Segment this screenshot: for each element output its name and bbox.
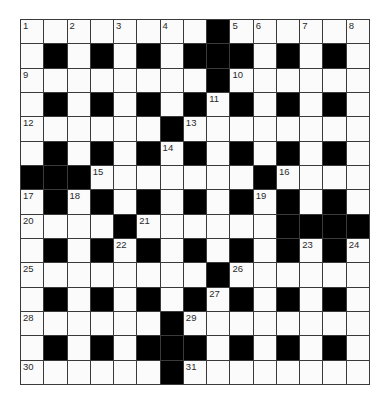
answer-cell[interactable]: 10	[230, 69, 252, 92]
answer-cell[interactable]: 25	[21, 263, 43, 286]
answer-cell[interactable]	[91, 312, 113, 335]
answer-cell[interactable]	[68, 361, 90, 384]
answer-cell[interactable]: 28	[21, 312, 43, 335]
answer-cell[interactable]	[347, 93, 369, 116]
answer-cell[interactable]	[184, 20, 206, 43]
answer-cell[interactable]	[254, 69, 276, 92]
answer-cell[interactable]: 7	[300, 20, 322, 43]
answer-cell[interactable]	[300, 288, 322, 311]
answer-cell[interactable]	[68, 215, 90, 238]
answer-cell[interactable]	[161, 166, 183, 189]
answer-cell[interactable]	[21, 239, 43, 262]
answer-cell[interactable]: 3	[114, 20, 136, 43]
answer-cell[interactable]	[21, 288, 43, 311]
answer-cell[interactable]	[137, 312, 159, 335]
answer-cell[interactable]	[161, 93, 183, 116]
answer-cell[interactable]	[114, 263, 136, 286]
answer-cell[interactable]	[300, 117, 322, 140]
answer-cell[interactable]	[114, 312, 136, 335]
answer-cell[interactable]	[91, 69, 113, 92]
answer-cell[interactable]: 6	[254, 20, 276, 43]
answer-cell[interactable]: 9	[21, 69, 43, 92]
answer-cell[interactable]	[300, 190, 322, 213]
answer-cell[interactable]	[207, 190, 229, 213]
answer-cell[interactable]	[323, 20, 345, 43]
answer-cell[interactable]	[323, 361, 345, 384]
answer-cell[interactable]	[137, 117, 159, 140]
answer-cell[interactable]	[254, 117, 276, 140]
answer-cell[interactable]	[137, 20, 159, 43]
answer-cell[interactable]	[137, 69, 159, 92]
answer-cell[interactable]	[254, 215, 276, 238]
answer-cell[interactable]	[277, 263, 299, 286]
answer-cell[interactable]	[114, 190, 136, 213]
answer-cell[interactable]: 15	[91, 166, 113, 189]
answer-cell[interactable]: 29	[184, 312, 206, 335]
answer-cell[interactable]	[91, 361, 113, 384]
answer-cell[interactable]	[114, 288, 136, 311]
answer-cell[interactable]: 19	[254, 190, 276, 213]
answer-cell[interactable]	[44, 20, 66, 43]
answer-cell[interactable]: 1	[21, 20, 43, 43]
answer-cell[interactable]	[114, 142, 136, 165]
answer-cell[interactable]	[114, 69, 136, 92]
answer-cell[interactable]: 5	[230, 20, 252, 43]
answer-cell[interactable]	[68, 93, 90, 116]
answer-cell[interactable]	[184, 69, 206, 92]
answer-cell[interactable]	[323, 117, 345, 140]
answer-cell[interactable]	[207, 336, 229, 359]
answer-cell[interactable]	[68, 288, 90, 311]
answer-cell[interactable]	[161, 263, 183, 286]
answer-cell[interactable]: 12	[21, 117, 43, 140]
answer-cell[interactable]	[254, 312, 276, 335]
answer-cell[interactable]	[21, 336, 43, 359]
answer-cell[interactable]	[277, 69, 299, 92]
answer-cell[interactable]	[44, 215, 66, 238]
answer-cell[interactable]: 4	[161, 20, 183, 43]
answer-cell[interactable]	[254, 142, 276, 165]
answer-cell[interactable]	[347, 69, 369, 92]
answer-cell[interactable]	[254, 288, 276, 311]
answer-cell[interactable]	[21, 142, 43, 165]
answer-cell[interactable]	[68, 239, 90, 262]
answer-cell[interactable]	[161, 288, 183, 311]
answer-cell[interactable]	[68, 312, 90, 335]
answer-cell[interactable]	[207, 117, 229, 140]
answer-cell[interactable]	[68, 117, 90, 140]
answer-cell[interactable]	[230, 312, 252, 335]
answer-cell[interactable]	[300, 69, 322, 92]
answer-cell[interactable]	[68, 263, 90, 286]
answer-cell[interactable]: 24	[347, 239, 369, 262]
answer-cell[interactable]	[161, 190, 183, 213]
answer-cell[interactable]	[114, 166, 136, 189]
answer-cell[interactable]: 21	[137, 215, 159, 238]
answer-cell[interactable]	[44, 263, 66, 286]
answer-cell[interactable]	[161, 44, 183, 67]
answer-cell[interactable]	[277, 312, 299, 335]
answer-cell[interactable]	[21, 44, 43, 67]
answer-cell[interactable]	[207, 239, 229, 262]
answer-cell[interactable]	[254, 44, 276, 67]
answer-cell[interactable]	[114, 336, 136, 359]
answer-cell[interactable]	[300, 166, 322, 189]
answer-cell[interactable]	[207, 215, 229, 238]
answer-cell[interactable]	[91, 20, 113, 43]
answer-cell[interactable]	[323, 166, 345, 189]
answer-cell[interactable]	[114, 44, 136, 67]
answer-cell[interactable]	[230, 361, 252, 384]
answer-cell[interactable]: 13	[184, 117, 206, 140]
answer-cell[interactable]	[44, 117, 66, 140]
answer-cell[interactable]	[300, 361, 322, 384]
answer-cell[interactable]: 27	[207, 288, 229, 311]
answer-cell[interactable]	[277, 117, 299, 140]
answer-cell[interactable]	[230, 215, 252, 238]
answer-cell[interactable]	[300, 312, 322, 335]
answer-cell[interactable]	[347, 312, 369, 335]
answer-cell[interactable]	[300, 93, 322, 116]
answer-cell[interactable]	[207, 142, 229, 165]
answer-cell[interactable]	[300, 142, 322, 165]
answer-cell[interactable]	[277, 361, 299, 384]
answer-cell[interactable]	[347, 117, 369, 140]
answer-cell[interactable]	[184, 263, 206, 286]
answer-cell[interactable]: 14	[161, 142, 183, 165]
